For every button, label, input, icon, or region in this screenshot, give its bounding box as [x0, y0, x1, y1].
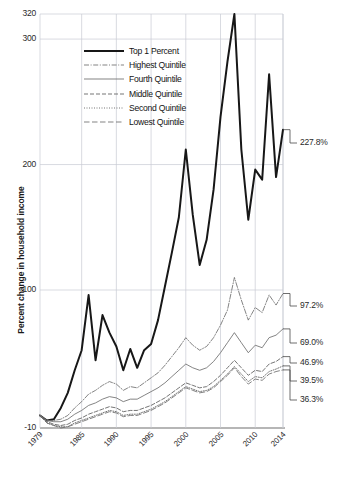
- end-label-leader-2: [283, 329, 297, 343]
- legend-item-label: Top 1 Percent: [129, 46, 179, 56]
- legend-line-swatch: [84, 60, 124, 70]
- legend-item-2: Fourth Quintile: [84, 72, 202, 86]
- legend-item-label: Fourth Quintile: [129, 74, 182, 84]
- legend-line-swatch: [84, 74, 124, 84]
- end-label-leader-5: [283, 370, 297, 400]
- end-label-leader-1: [283, 294, 297, 306]
- chart-legend: Top 1 PercentHighest QuintileFourth Quin…: [84, 44, 202, 129]
- legend-item-3: Middle Quintile: [84, 87, 202, 101]
- series-line-4: [40, 366, 283, 427]
- legend-item-0: Top 1 Percent: [84, 44, 202, 58]
- legend-item-4: Second Quintile: [84, 101, 202, 115]
- legend-item-label: Middle Quintile: [129, 89, 182, 99]
- end-label-leader-0: [283, 130, 297, 143]
- chart-container: Percent change in household income 32030…: [0, 0, 346, 487]
- legend-line-swatch: [84, 89, 124, 99]
- legend-line-swatch: [84, 117, 124, 127]
- end-label-leader-3: [283, 357, 297, 363]
- series-line-5: [40, 368, 283, 428]
- legend-item-5: Lowest Quintile: [84, 115, 202, 129]
- legend-line-swatch: [84, 103, 124, 113]
- legend-line-swatch: [84, 46, 124, 56]
- series-line-2: [40, 329, 283, 422]
- legend-item-label: Second Quintile: [129, 103, 186, 113]
- legend-item-1: Highest Quintile: [84, 58, 202, 72]
- legend-item-label: Lowest Quintile: [129, 117, 184, 127]
- legend-item-label: Highest Quintile: [129, 60, 186, 70]
